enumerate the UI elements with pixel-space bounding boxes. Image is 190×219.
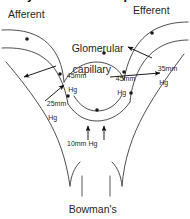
pressure-value: 45mm — [67, 72, 86, 79]
arrow-efferent-inward — [128, 47, 152, 58]
bowmans-capsule-neck-left — [70, 162, 80, 186]
pressure-value: 45mm — [116, 75, 135, 82]
vessel-dot — [95, 108, 99, 112]
bowmans-capsule-neck-right — [112, 162, 122, 186]
label-pressure-oncotic: 25mm Hg — [39, 93, 66, 136]
pressure-unit: Hg — [150, 79, 177, 86]
label-pressure-bowmans-capsule: 10mm Hg — [67, 140, 97, 147]
vessel-dot — [150, 31, 154, 35]
pressure-unit: Hg — [108, 89, 135, 96]
pressure-value: 35mm — [158, 65, 177, 72]
pressure-value: 25mm — [47, 100, 66, 107]
label-afferent: Afferent — [8, 9, 45, 20]
label-pressure-efferent: 35mm Hg — [150, 58, 177, 101]
glomerular-filtration-diagram: by Glomerular Capillaries — [0, 0, 190, 219]
vessel-dot — [25, 37, 29, 41]
pressure-unit: Hg — [39, 114, 66, 121]
label-glomerular-line1: Glomerular — [72, 42, 124, 54]
label-efferent: Efferent — [133, 5, 170, 16]
label-bowmans-capsule: Bowman's capsule — [57, 193, 117, 219]
arrow-hydrostatic-left — [24, 66, 56, 77]
label-bowmans-line1: Bowman's — [69, 203, 117, 215]
label-pressure-hydrostatic-right: 45mm Hg — [108, 68, 135, 111]
